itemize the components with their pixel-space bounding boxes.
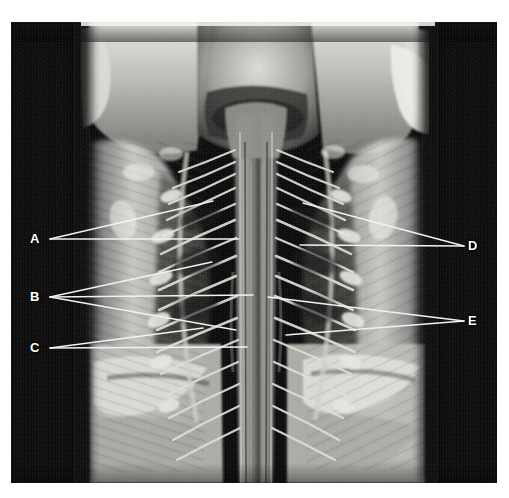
figure-root: ABCDE bbox=[0, 0, 509, 498]
leader-line-b-2 bbox=[50, 262, 212, 297]
leader-line-b-3 bbox=[50, 295, 253, 297]
leader-line-d-8 bbox=[300, 245, 464, 246]
label-d: D bbox=[468, 239, 478, 252]
leader-line-a-0 bbox=[50, 201, 213, 239]
label-e: E bbox=[468, 314, 477, 327]
leader-lines bbox=[50, 201, 464, 348]
label-a: A bbox=[30, 232, 40, 245]
label-c: C bbox=[30, 341, 40, 354]
leader-line-layer bbox=[11, 22, 497, 483]
leader-line-c-5 bbox=[50, 328, 203, 348]
dissection-photograph bbox=[11, 22, 497, 483]
leader-line-e-9 bbox=[268, 297, 464, 321]
label-b: B bbox=[30, 290, 40, 303]
leader-line-e-10 bbox=[286, 321, 464, 335]
leader-line-c-6 bbox=[50, 347, 247, 348]
leader-line-b-4 bbox=[50, 297, 236, 330]
leader-line-d-7 bbox=[303, 203, 464, 246]
